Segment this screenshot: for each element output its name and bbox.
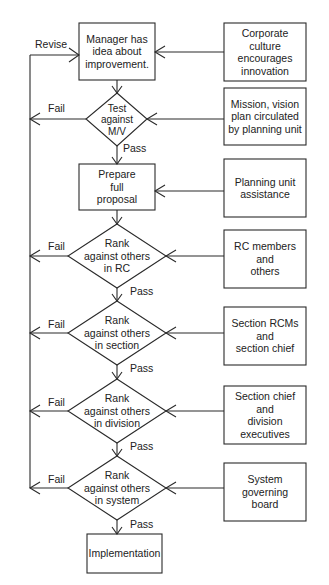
edge-label-pass-rank-section: Pass [130, 362, 153, 374]
node-implementation-label: Implementation [87, 534, 162, 573]
edge-label-pass-test-mv: Pass [123, 142, 146, 154]
input-section-rcms-label: Section RCMs and section chief [224, 307, 306, 365]
node-rank-rc-label: Rank against others in RC [68, 230, 166, 282]
input-arrow-mission [147, 113, 224, 125]
connector-test-to-prepare [112, 146, 122, 164]
connector-section-to-division [112, 365, 122, 379]
node-rank-division-label: Rank against others in division [68, 385, 166, 437]
input-arrow-planning [155, 185, 224, 197]
input-rc-members-label: RC members and others [224, 230, 306, 288]
fail-arrow-test-mv [30, 113, 86, 125]
input-mission-label: Mission, vision plan circulated by plann… [224, 88, 306, 145]
input-arrow-section-rcms [166, 327, 224, 339]
node-prepare-label: Prepare full proposal [79, 164, 155, 210]
input-arrow-culture [155, 46, 224, 58]
input-culture-label: Corporate culture encourages innovation [224, 23, 306, 81]
input-section-chief-label: Section chief and division executives [224, 386, 306, 444]
edge-label-pass-rank-division: Pass [130, 440, 153, 452]
node-test-mv-label: Test against M/V [86, 96, 148, 144]
edge-label-pass-rank-system: Pass [130, 518, 153, 530]
edge-label-pass-rank-rc: Pass [130, 285, 153, 297]
edge-label-revise: Revise [35, 38, 67, 50]
edge-label-fail-rank-section: Fail [48, 318, 65, 330]
input-arrow-rc-members [166, 250, 224, 262]
node-rank-system-label: Rank against others in system [68, 462, 166, 514]
node-idea-label: Manager has idea about improvement. [79, 23, 155, 80]
input-arrow-section-chief [166, 405, 224, 417]
edge-label-fail-rank-division: Fail [48, 396, 65, 408]
connector-division-to-system [112, 443, 122, 456]
edge-label-fail-rank-rc: Fail [48, 240, 65, 252]
node-rank-section-label: Rank against others in section [68, 307, 166, 359]
connector-system-to-implementation [112, 520, 122, 534]
connector-idea-to-test [112, 80, 122, 93]
input-governing-label: System governing board [224, 463, 306, 521]
input-planning-label: Planning unit assistance [224, 159, 306, 217]
input-arrow-governing [166, 482, 224, 494]
edge-label-fail-rank-system: Fail [48, 473, 65, 485]
edge-label-fail-test-mv: Fail [48, 102, 65, 114]
connector-rc-to-section [112, 288, 122, 301]
connector-prepare-to-rc [112, 210, 122, 224]
